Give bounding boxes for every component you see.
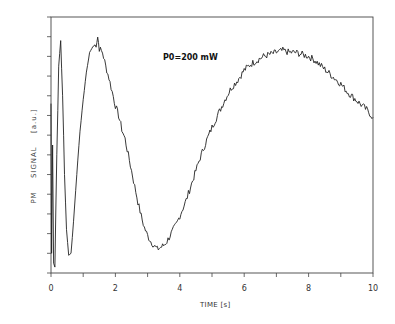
chart-canvas [0, 0, 395, 324]
x-tick-label: 6 [242, 284, 247, 293]
y-axis-label: PM SIGNAL [a.u.] [30, 108, 38, 203]
pm-signal-line [51, 37, 373, 267]
x-axis-label: TIME [s] [200, 301, 231, 309]
x-tick-label: 8 [306, 284, 311, 293]
x-tick-label: 4 [177, 284, 182, 293]
x-tick-label: 0 [48, 284, 53, 293]
x-tick-label: 10 [368, 284, 378, 293]
x-tick-label: 2 [113, 284, 118, 293]
power-annotation: P0=200 mW [163, 53, 218, 62]
